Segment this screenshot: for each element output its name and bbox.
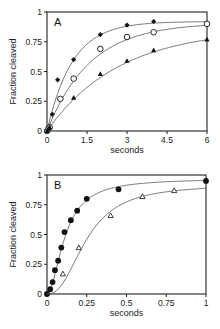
open-circle-marker — [124, 34, 130, 40]
open-circle-marker — [71, 76, 77, 82]
x-tick-label: 0.75 — [158, 298, 175, 308]
plot-b: 00.250.50.75100.250.50.751secondsFractio… — [0, 165, 220, 329]
plot-frame — [47, 175, 206, 294]
x-tick-label: 0.5 — [121, 298, 133, 308]
diamond-marker — [55, 77, 60, 82]
y-tick-label: 0 — [37, 126, 42, 136]
fit-curve — [47, 188, 206, 294]
series-circle-open — [44, 21, 210, 134]
open-triangle-marker — [76, 245, 81, 250]
y-tick-label: 1 — [37, 170, 42, 180]
x-tick-label: 1.5 — [81, 135, 93, 145]
series-triangle-filled — [44, 37, 209, 133]
y-tick-label: 0.25 — [25, 96, 42, 106]
y-tick-label: 0 — [37, 289, 42, 299]
panel-letter: B — [54, 179, 61, 191]
y-tick-label: 0.75 — [25, 200, 42, 210]
x-tick-label: 0 — [45, 135, 50, 145]
x-axis-title: seconds — [110, 145, 144, 155]
x-tick-label: 4.5 — [161, 135, 173, 145]
open-circle-marker — [204, 21, 210, 27]
filled-triangle-marker — [151, 47, 156, 52]
x-tick-label: 0.25 — [78, 298, 95, 308]
filled-circle-marker — [74, 208, 80, 214]
filled-triangle-marker — [124, 58, 129, 63]
plot-frame — [47, 12, 207, 131]
filled-circle-marker — [203, 178, 209, 184]
y-tick-label: 0.5 — [30, 67, 42, 77]
x-tick-label: 3 — [125, 135, 130, 145]
y-tick-label: 1 — [37, 7, 42, 17]
filled-circle-marker — [116, 186, 122, 192]
series-triangle-open — [47, 188, 206, 294]
y-tick-label: 0.5 — [30, 230, 42, 240]
filled-circle-marker — [68, 217, 74, 223]
filled-triangle-marker — [98, 71, 103, 76]
filled-circle-marker — [55, 258, 61, 264]
filled-circle-marker — [62, 229, 68, 235]
diamond-marker — [98, 32, 103, 37]
y-axis-title: Fraction cleaved — [8, 38, 18, 104]
x-tick-label: 0 — [45, 298, 50, 308]
filled-circle-marker — [84, 196, 90, 202]
x-tick-label: 6 — [205, 135, 210, 145]
open-triangle-marker — [172, 188, 177, 193]
open-triangle-marker — [60, 271, 65, 276]
filled-circle-marker — [58, 245, 64, 251]
y-axis-title: Fraction cleaved — [8, 201, 18, 267]
x-tick-label: 1 — [204, 298, 209, 308]
open-triangle-marker — [108, 213, 113, 218]
plot-a: 00.250.50.75101.534.56secondsFraction cl… — [0, 0, 220, 165]
chart-panel-b: 00.250.50.75100.250.50.751secondsFractio… — [0, 165, 220, 329]
chart-panel-a: 00.250.50.75101.534.56secondsFraction cl… — [0, 0, 220, 165]
panel-letter: A — [54, 16, 62, 28]
filled-circle-marker — [52, 267, 58, 273]
y-tick-label: 0.25 — [25, 259, 42, 269]
y-tick-label: 0.75 — [25, 37, 42, 47]
x-axis-title: seconds — [110, 308, 144, 318]
filled-circle-marker — [50, 279, 56, 285]
filled-triangle-marker — [204, 37, 209, 42]
filled-circle-marker — [47, 286, 53, 292]
series-circle-filled — [44, 178, 209, 297]
fit-curve — [47, 180, 206, 294]
open-circle-marker — [98, 46, 104, 52]
open-circle-marker — [151, 29, 157, 35]
open-circle-marker — [58, 96, 64, 102]
